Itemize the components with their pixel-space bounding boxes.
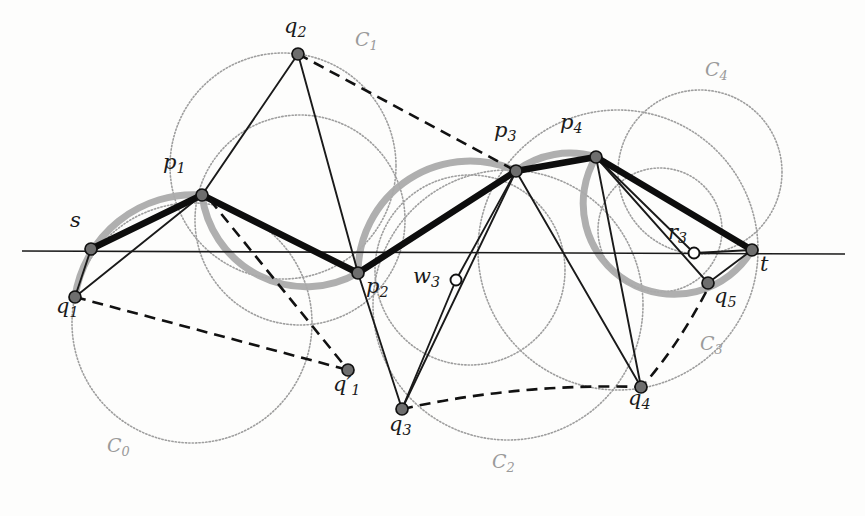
vertex-t[interactable]: [746, 244, 758, 256]
edge-p4-q4: [596, 157, 641, 387]
label-p3: p3: [494, 120, 517, 143]
edge-q2-p2: [298, 54, 358, 273]
vertex-p2[interactable]: [352, 267, 364, 279]
vertex-w3[interactable]: [451, 275, 462, 286]
label-p4: p4: [560, 112, 583, 135]
label-C0: C0: [107, 436, 130, 459]
label-r3: r3: [668, 222, 687, 245]
label-t: t: [760, 254, 768, 275]
vertex-r3[interactable]: [689, 248, 700, 259]
label-p1: p1: [163, 152, 186, 175]
label-q2: q2: [284, 16, 307, 39]
dashed-q1-q1prime: [75, 297, 348, 370]
dashed-q2-p3: [298, 54, 516, 171]
label-q4: q4: [628, 388, 651, 411]
geometry-figure: s t p1 p2 p3 p4 q1 q′1 q2 q3 q4 q5 w3 r3…: [0, 0, 865, 516]
label-q5: q5: [714, 286, 737, 309]
label-C1: C1: [355, 30, 378, 53]
label-C2: C2: [492, 452, 515, 475]
circle-C2: [373, 170, 643, 440]
label-p2: p2: [366, 276, 389, 299]
vertex-p1[interactable]: [196, 189, 208, 201]
vertex-s[interactable]: [85, 243, 97, 255]
thin-edges: [75, 54, 752, 409]
label-q1: q1: [56, 296, 79, 319]
label-C4: C4: [705, 60, 728, 83]
vertex-q2[interactable]: [292, 48, 304, 60]
dashed-q5-q4: [646, 292, 706, 382]
label-C3: C3: [700, 334, 723, 357]
vertex-p4[interactable]: [590, 151, 602, 163]
label-s: s: [70, 210, 81, 231]
label-q3: q3: [389, 414, 412, 437]
label-w3: w3: [413, 266, 440, 289]
construction-circles: [72, 53, 782, 443]
vertex-q5[interactable]: [702, 277, 714, 289]
label-q1-prime: q′1: [333, 374, 360, 397]
edge-w3-q3: [402, 280, 456, 409]
circle-C4: [618, 90, 782, 254]
vertex-p3[interactable]: [510, 165, 522, 177]
